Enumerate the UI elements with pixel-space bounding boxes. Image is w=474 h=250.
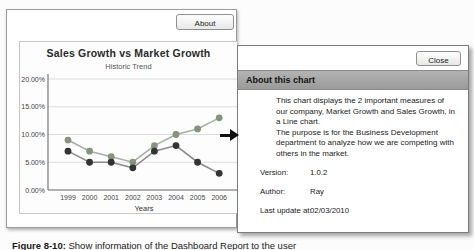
version-row: Version: 1.0.2 bbox=[260, 168, 288, 177]
figure-caption: Figure 8-10: Show information of the Das… bbox=[12, 240, 472, 250]
chart-panel: Sales Growth vs Market Growth Historic T… bbox=[19, 41, 238, 214]
figure-caption-text: Show information of the Dashboard Report… bbox=[69, 240, 297, 250]
svg-text:10.00%: 10.00% bbox=[21, 131, 45, 138]
close-button[interactable]: Close bbox=[416, 51, 461, 66]
svg-text:5.00%: 5.00% bbox=[25, 159, 45, 166]
svg-text:2001: 2001 bbox=[103, 194, 119, 201]
svg-text:2000: 2000 bbox=[82, 194, 98, 201]
svg-text:2006: 2006 bbox=[211, 194, 227, 201]
svg-text:2003: 2003 bbox=[147, 194, 163, 201]
dialog-title: About this chart bbox=[238, 70, 468, 90]
svg-text:2005: 2005 bbox=[190, 194, 206, 201]
version-value: 1.0.2 bbox=[310, 168, 327, 177]
svg-text:0.00%: 0.00% bbox=[25, 187, 45, 194]
author-value: Ray bbox=[310, 187, 324, 196]
dialog-paragraph-2: The purpose is for the Business Developm… bbox=[276, 128, 456, 160]
figure-caption-number: Figure 8-10: bbox=[12, 240, 66, 250]
dialog-paragraph-1: This chart displays the 2 important meas… bbox=[276, 96, 456, 128]
last-update-value: 02/03/2010 bbox=[310, 206, 349, 215]
arrow-right-icon bbox=[220, 129, 239, 141]
svg-text:15.00%: 15.00% bbox=[21, 103, 45, 110]
line-chart-plot: 0.00%5.00%10.00%15.00%20.00%199920002001… bbox=[20, 42, 239, 215]
last-update-label: Last update at: bbox=[260, 206, 312, 215]
svg-text:1999: 1999 bbox=[60, 194, 76, 201]
svg-text:2004: 2004 bbox=[168, 194, 184, 201]
svg-text:Years: Years bbox=[135, 204, 154, 213]
dialog-description: This chart displays the 2 important meas… bbox=[276, 96, 456, 159]
author-row: Author: Ray bbox=[260, 187, 285, 196]
svg-text:20.00%: 20.00% bbox=[21, 76, 45, 83]
last-update-row: Last update at: 02/03/2010 bbox=[260, 206, 312, 215]
about-chart-dialog: Close About this chart This chart displa… bbox=[237, 45, 469, 233]
author-label: Author: bbox=[260, 187, 285, 196]
about-button[interactable]: About bbox=[176, 14, 234, 30]
report-window: About Sales Growth vs Market Growth Hist… bbox=[6, 9, 237, 228]
svg-text:2002: 2002 bbox=[125, 194, 141, 201]
version-label: Version: bbox=[260, 168, 288, 177]
